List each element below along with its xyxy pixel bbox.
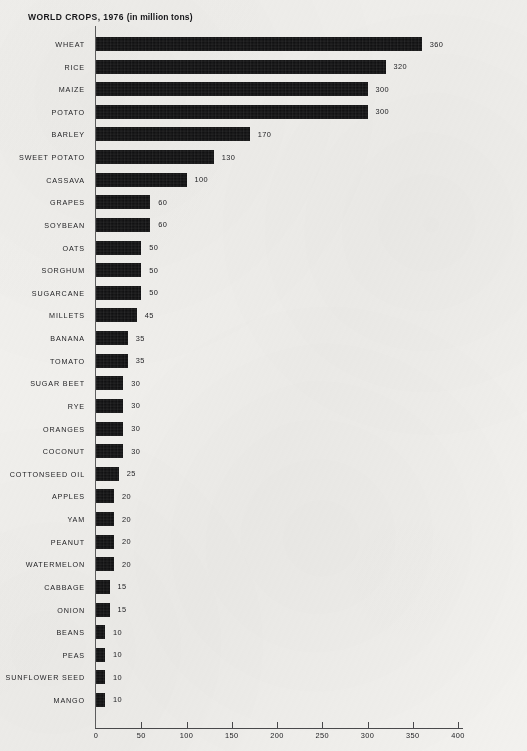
bar <box>96 648 105 662</box>
bar-value-label: 320 <box>394 62 408 71</box>
x-axis-tick <box>187 722 188 728</box>
bar <box>96 625 105 639</box>
bar-row: SORGHUM50 <box>0 262 527 285</box>
bar-category-label: RYE <box>68 402 85 411</box>
bar-value-label: 30 <box>131 379 140 388</box>
bar-row: MILLETS45 <box>0 307 527 330</box>
bar <box>96 557 114 571</box>
bar <box>96 422 123 436</box>
x-axis-tick-label: 200 <box>270 731 284 740</box>
bar-value-label: 170 <box>258 130 272 139</box>
bar-row: CABBAGE15 <box>0 579 527 602</box>
bar-row: MANGO10 <box>0 692 527 715</box>
x-axis-tick <box>322 722 323 728</box>
bar-row: BANANA35 <box>0 330 527 353</box>
bar-value-label: 50 <box>149 243 158 252</box>
bar-value-label: 300 <box>376 107 390 116</box>
page-title: WORLD CROPS, 1976 (in million tons) <box>28 12 193 22</box>
bar-category-label: PEAS <box>62 651 85 660</box>
x-axis-tick-label: 350 <box>406 731 420 740</box>
x-axis-tick <box>277 722 278 728</box>
bar-category-label: BANANA <box>50 334 85 343</box>
bar-category-label: BEANS <box>56 628 85 637</box>
bar-row: WATERMELON20 <box>0 556 527 579</box>
bar-value-label: 10 <box>113 673 122 682</box>
bar-value-label: 50 <box>149 288 158 297</box>
bar <box>96 580 110 594</box>
bar <box>96 399 123 413</box>
bar <box>96 693 105 707</box>
bar-category-label: TOMATO <box>50 357 85 366</box>
bar-row: TOMATO35 <box>0 353 527 376</box>
bar <box>96 263 141 277</box>
bar-category-label: GRAPES <box>50 198 85 207</box>
bar-category-label: SORGHUM <box>42 266 85 275</box>
bar-row: BARLEY170 <box>0 126 527 149</box>
bar-value-label: 60 <box>158 220 167 229</box>
x-axis-tick <box>232 722 233 728</box>
bar-row: APPLES20 <box>0 488 527 511</box>
x-axis-tick <box>368 722 369 728</box>
bar-category-label: MANGO <box>54 696 85 705</box>
bar-row: PEANUT20 <box>0 534 527 557</box>
bar-row: POTATO300 <box>0 104 527 127</box>
bar-value-label: 300 <box>376 85 390 94</box>
bar <box>96 670 105 684</box>
bar-value-label: 15 <box>118 582 127 591</box>
bar-row: SWEET POTATO130 <box>0 149 527 172</box>
bar-value-label: 25 <box>127 469 136 478</box>
bar-value-label: 30 <box>131 401 140 410</box>
bar-row: MAIZE300 <box>0 81 527 104</box>
bar-row: ONION15 <box>0 602 527 625</box>
bar <box>96 150 214 164</box>
bar-row: GRAPES60 <box>0 194 527 217</box>
bar-category-label: BARLEY <box>52 130 85 139</box>
bar-category-label: COTTONSEED OIL <box>10 470 85 479</box>
x-axis-tick-label: 400 <box>451 731 465 740</box>
bar <box>96 308 137 322</box>
bar-chart-plot-area: WHEAT360RICE320MAIZE300POTATO300BARLEY17… <box>0 0 527 751</box>
bar-category-label: PEANUT <box>51 538 85 547</box>
bar <box>96 195 150 209</box>
bar-value-label: 360 <box>430 40 444 49</box>
bar-category-label: CASSAVA <box>46 176 85 185</box>
bar-category-label: YAM <box>67 515 85 524</box>
bar-value-label: 10 <box>113 695 122 704</box>
bar <box>96 37 422 51</box>
bar-row: SUGAR BEET30 <box>0 375 527 398</box>
bar-row: COTTONSEED OIL25 <box>0 466 527 489</box>
bar-category-label: ONION <box>57 606 85 615</box>
bar-value-label: 30 <box>131 447 140 456</box>
bar-row: RYE30 <box>0 398 527 421</box>
bar <box>96 535 114 549</box>
bar-value-label: 20 <box>122 492 131 501</box>
x-axis-tick-label: 100 <box>180 731 194 740</box>
bar-category-label: COCONUT <box>43 447 85 456</box>
x-axis-tick-label: 0 <box>94 731 99 740</box>
bar <box>96 286 141 300</box>
bar <box>96 173 187 187</box>
x-axis-tick-label: 250 <box>315 731 329 740</box>
bar <box>96 467 119 481</box>
bar-category-label: MILLETS <box>49 311 85 320</box>
x-axis-tick <box>413 722 414 728</box>
bar <box>96 60 386 74</box>
bar-row: COCONUT30 <box>0 443 527 466</box>
bar-category-label: SUGAR BEET <box>30 379 85 388</box>
bar-row: OATS50 <box>0 240 527 263</box>
bar-value-label: 10 <box>113 650 122 659</box>
chart-title-main: WORLD CROPS, 1976 <box>28 12 124 22</box>
x-axis-tick <box>141 722 142 728</box>
x-axis-tick-label: 300 <box>361 731 375 740</box>
bar <box>96 354 128 368</box>
bar <box>96 241 141 255</box>
bar-value-label: 10 <box>113 628 122 637</box>
bar-value-label: 35 <box>136 356 145 365</box>
bar-value-label: 20 <box>122 537 131 546</box>
bar-category-label: CABBAGE <box>44 583 85 592</box>
bar-row: SUGARCANE50 <box>0 285 527 308</box>
chart-title-unit-note: (in million tons) <box>127 12 193 22</box>
bar-category-label: POTATO <box>52 108 85 117</box>
x-axis-tick <box>458 722 459 728</box>
x-axis-tick-label: 50 <box>137 731 146 740</box>
